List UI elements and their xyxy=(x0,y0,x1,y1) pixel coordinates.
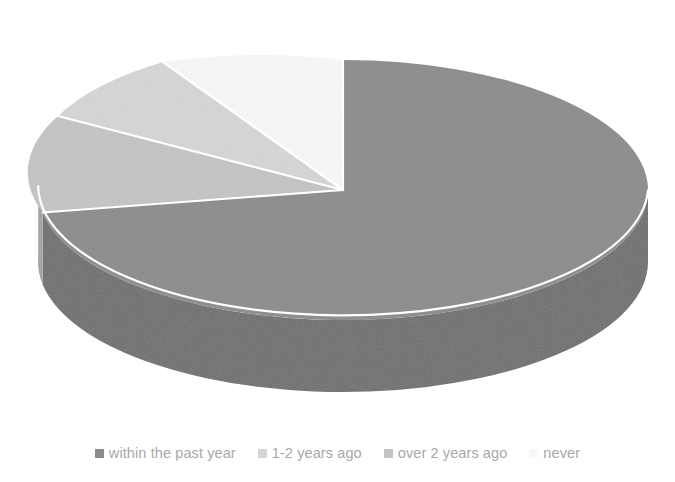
chart-legend: within the past year 1-2 years ago over … xyxy=(0,440,675,466)
legend-item-over-2-years-ago[interactable]: over 2 years ago xyxy=(384,445,508,461)
legend-item-1-2-years-ago[interactable]: 1-2 years ago xyxy=(258,445,362,461)
pie-chart-graphic xyxy=(0,0,675,482)
legend-label: never xyxy=(543,445,580,461)
legend-item-never[interactable]: never xyxy=(529,445,580,461)
legend-swatch-icon xyxy=(529,449,538,458)
legend-swatch-icon xyxy=(258,449,267,458)
legend-swatch-icon xyxy=(384,449,393,458)
pie-chart-figure: within the past year 1-2 years ago over … xyxy=(0,0,675,482)
legend-label: 1-2 years ago xyxy=(272,445,362,461)
legend-item-within-the-past-year[interactable]: within the past year xyxy=(95,445,236,461)
legend-swatch-icon xyxy=(95,449,104,458)
legend-label: within the past year xyxy=(109,445,236,461)
legend-label: over 2 years ago xyxy=(398,445,508,461)
